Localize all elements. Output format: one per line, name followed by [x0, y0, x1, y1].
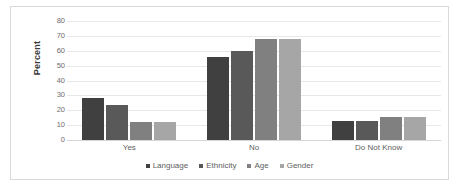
y-axis-tick-70: 70 — [57, 32, 65, 40]
legend-swatch-icon — [280, 164, 284, 168]
legend-swatch-icon — [199, 164, 203, 168]
y-axis-tick-10: 10 — [57, 121, 65, 129]
y-axis-tick-0: 0 — [61, 136, 65, 144]
y-axis-tick-80: 80 — [57, 17, 65, 25]
legend-label: Ethnicity — [206, 161, 236, 170]
y-axis-tick-labels: 80706050403020100 — [41, 21, 65, 140]
bar-age-yes — [130, 122, 152, 140]
legend-swatch-icon — [247, 164, 251, 168]
bar-ethnicity-do-not-know — [356, 121, 378, 140]
bar-language-do-not-know — [332, 121, 354, 140]
bar-age-do-not-know — [380, 117, 402, 140]
legend-item-language[interactable]: Language — [146, 161, 189, 170]
y-axis-tick-50: 50 — [57, 62, 65, 70]
chart-frame: Percent 80706050403020100 YesNoDo Not Kn… — [10, 6, 449, 180]
x-axis-label-no: No — [249, 143, 259, 152]
legend-label: Age — [254, 161, 268, 170]
bar-group-do-not-know — [316, 21, 441, 140]
gridline-0 — [67, 140, 441, 141]
chart-legend: LanguageEthnicityAgeGender — [11, 161, 448, 170]
y-axis-tick-40: 40 — [57, 77, 65, 85]
y-axis-tick-30: 30 — [57, 92, 65, 100]
legend-item-gender[interactable]: Gender — [280, 161, 314, 170]
legend-item-ethnicity[interactable]: Ethnicity — [199, 161, 236, 170]
bar-gender-no — [279, 39, 301, 140]
bar-ethnicity-no — [231, 51, 253, 140]
bar-gender-do-not-know — [404, 117, 426, 140]
bar-age-no — [255, 39, 277, 140]
bar-group-yes — [67, 21, 192, 140]
x-axis-label-yes: Yes — [123, 143, 136, 152]
x-axis-label-do-not-know: Do Not Know — [355, 143, 402, 152]
legend-swatch-icon — [146, 164, 150, 168]
legend-label: Gender — [287, 161, 314, 170]
bar-language-yes — [82, 98, 104, 140]
bar-group-no — [192, 21, 317, 140]
legend-item-age[interactable]: Age — [247, 161, 268, 170]
x-axis-category-labels: YesNoDo Not Know — [67, 143, 441, 157]
y-axis-tick-20: 20 — [57, 107, 65, 115]
y-axis-tick-60: 60 — [57, 47, 65, 55]
bar-gender-yes — [154, 122, 176, 140]
bar-series-container — [67, 21, 441, 140]
legend-label: Language — [153, 161, 189, 170]
plot-area — [67, 21, 441, 140]
bar-ethnicity-yes — [106, 105, 128, 140]
bar-language-no — [207, 57, 229, 140]
